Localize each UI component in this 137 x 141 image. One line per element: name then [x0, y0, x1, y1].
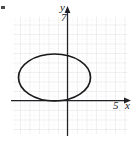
coordinate-plane-graphic — [0, 0, 137, 141]
x-axis-tick-label: 5 — [113, 100, 119, 111]
figure-canvas: y 7 5 x — [0, 0, 137, 141]
x-axis-label: x — [125, 100, 130, 111]
grid-group — [13, 17, 127, 134]
major-gridlines — [13, 17, 127, 134]
y-axis-tick-label: 7 — [61, 12, 67, 23]
